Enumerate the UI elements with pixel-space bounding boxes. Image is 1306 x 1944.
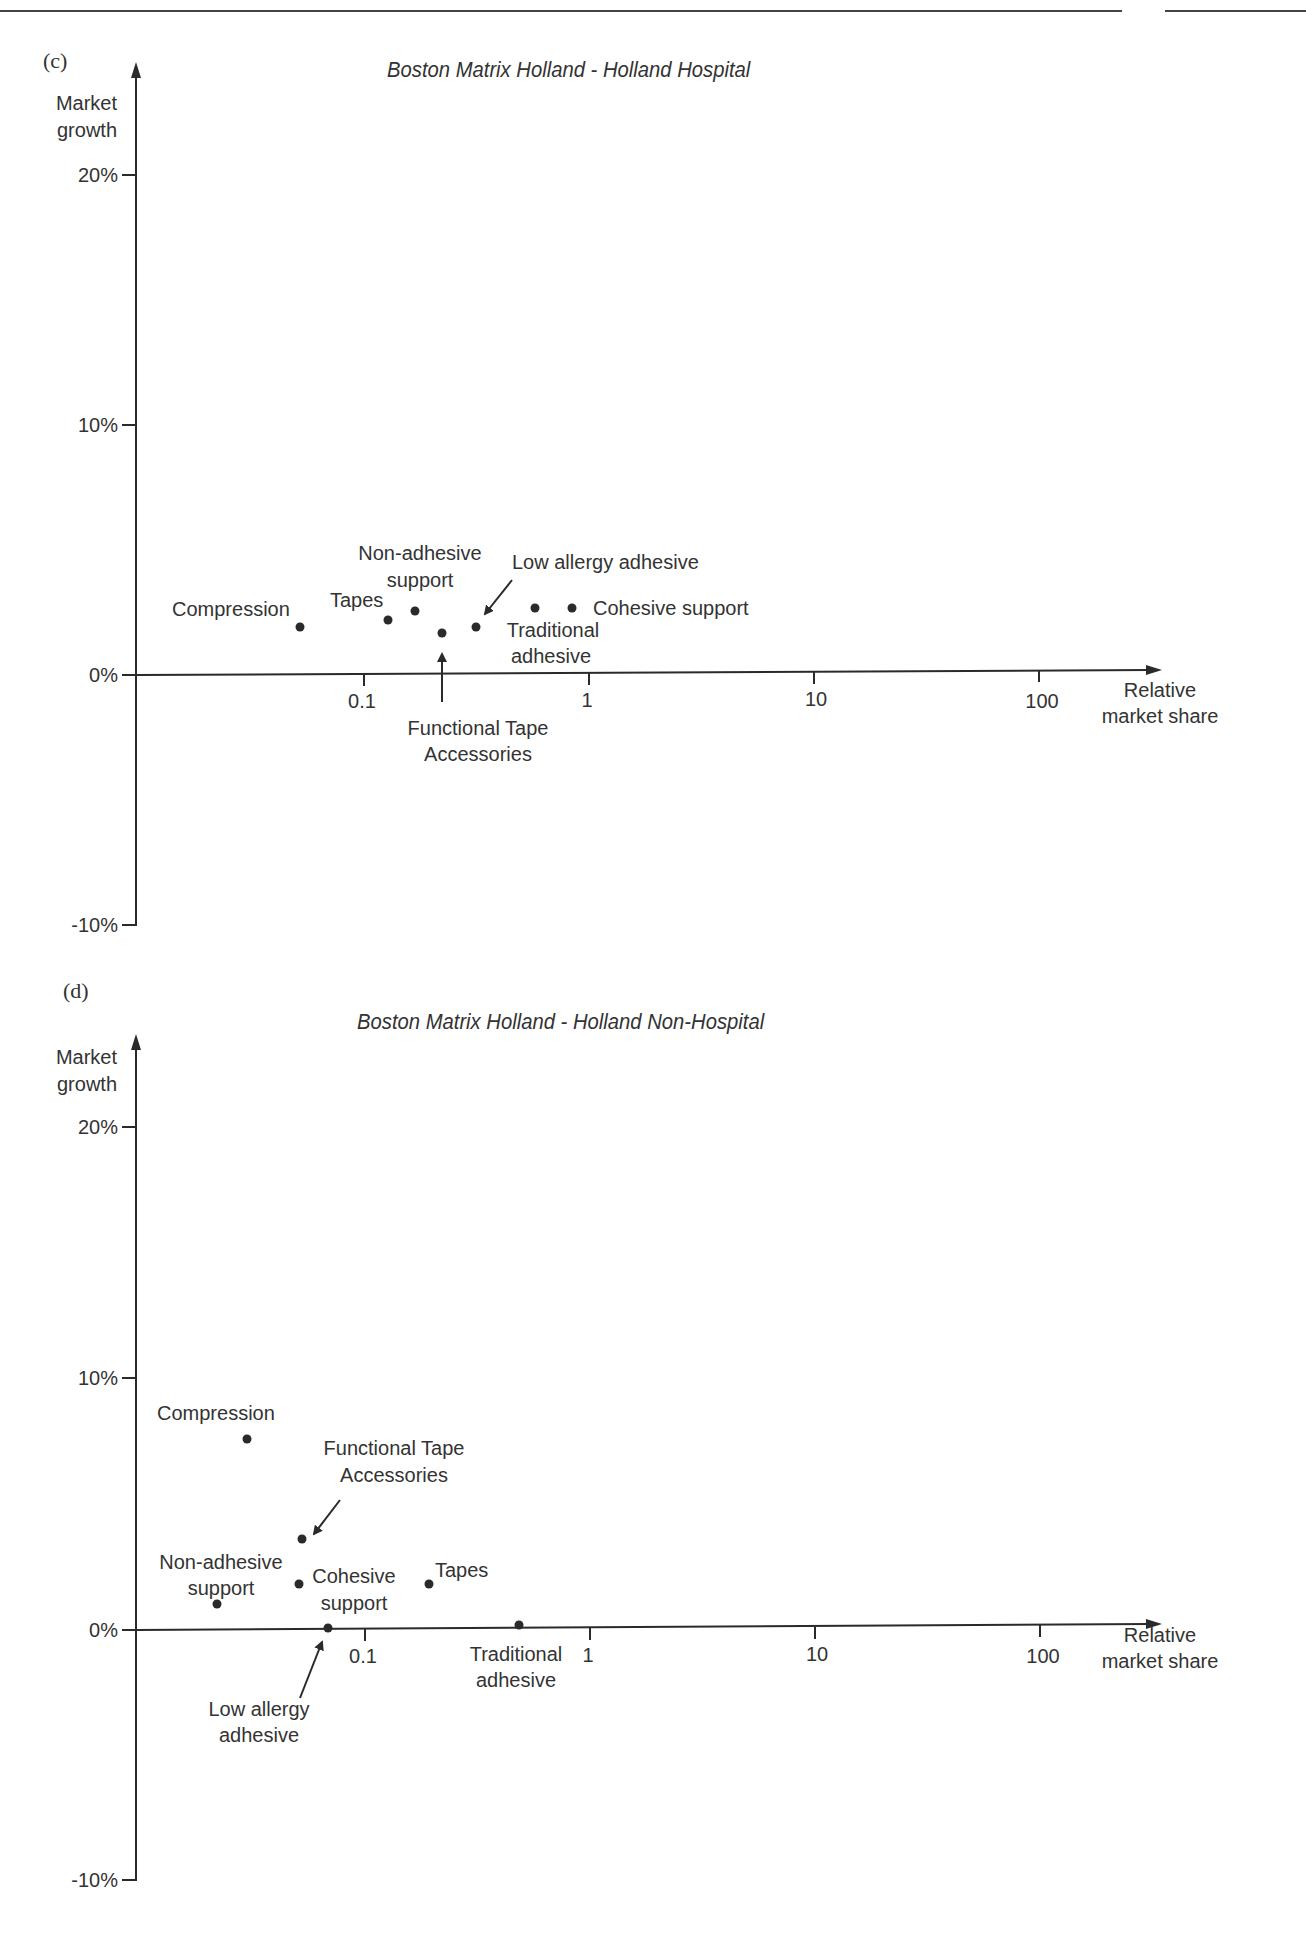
x-axis-arrow-icon [1146, 665, 1162, 675]
arrow-low-allergy [300, 1642, 322, 1698]
point-non-adhesive-support [213, 1600, 222, 1609]
label-traditional-2: adhesive [476, 1669, 556, 1691]
label-non-adhesive-2: support [387, 569, 454, 591]
point-traditional-adhesive [531, 604, 540, 613]
label-fta-1: Functional Tape [324, 1437, 465, 1459]
xtick-1: 1 [581, 689, 592, 711]
xtick-100: 100 [1025, 690, 1058, 712]
ytick-20: 20% [78, 164, 118, 186]
ytick-10: 10% [78, 1367, 118, 1389]
label-non-adhesive-2: support [188, 1577, 255, 1599]
point-functional-tape-accessories [298, 1535, 307, 1544]
x-axis [136, 670, 1150, 675]
point-low-allergy-adhesive [472, 623, 481, 632]
label-tapes: Tapes [330, 589, 383, 611]
chart-c: 20% 10% 0% -10% Market growth 0.1 1 10 1… [0, 0, 1306, 940]
arrow-functional-tape [314, 1500, 340, 1534]
point-tapes [425, 1580, 434, 1589]
ytick-m10: -10% [71, 914, 118, 936]
point-low-allergy-adhesive [324, 1624, 333, 1633]
label-cohesive-2: support [321, 1592, 388, 1614]
label-non-adhesive-1: Non-adhesive [159, 1551, 282, 1573]
ytick-m10: -10% [71, 1869, 118, 1891]
label-fta-1: Functional Tape [408, 717, 549, 739]
y-axis-arrow-icon [131, 1034, 141, 1050]
point-traditional-adhesive [515, 1621, 524, 1630]
xlabel-line1: Relative [1124, 1624, 1196, 1646]
point-compression [243, 1435, 252, 1444]
xlabel-line1: Relative [1124, 679, 1196, 701]
ytick-0: 0% [89, 1619, 118, 1641]
ylabel-line1: Market [56, 92, 118, 114]
ylabel-line2: growth [57, 1073, 117, 1095]
point-cohesive-support [295, 1580, 304, 1589]
label-low-allergy-2: adhesive [219, 1724, 299, 1746]
xtick-1: 1 [582, 1644, 593, 1666]
point-cohesive-support [568, 604, 577, 613]
arrow-low-allergy [485, 580, 512, 614]
label-cohesive-1: Cohesive [312, 1565, 395, 1587]
label-traditional-1: Traditional [470, 1643, 563, 1665]
ylabel-line1: Market [56, 1046, 118, 1068]
label-traditional-2: adhesive [511, 645, 591, 667]
label-tapes: Tapes [435, 1559, 488, 1581]
ytick-0: 0% [89, 664, 118, 686]
label-low-allergy: Low allergy adhesive [512, 551, 699, 573]
label-non-adhesive-1: Non-adhesive [358, 542, 481, 564]
label-traditional-1: Traditional [507, 619, 600, 641]
point-tapes [384, 616, 393, 625]
label-compression: Compression [172, 598, 290, 620]
chart-d: 20% 10% 0% -10% Market growth 0.1 1 10 1… [0, 940, 1306, 1944]
label-fta-2: Accessories [340, 1464, 448, 1486]
xtick-0.1: 0.1 [349, 1645, 377, 1667]
label-low-allergy-1: Low allergy [208, 1698, 309, 1720]
xtick-10: 10 [806, 1643, 828, 1665]
ytick-10: 10% [78, 414, 118, 436]
xtick-100: 100 [1026, 1645, 1059, 1667]
point-functional-tape-accessories [438, 629, 447, 638]
point-compression [296, 623, 305, 632]
y-axis-arrow-icon [131, 62, 141, 78]
xtick-10: 10 [805, 688, 827, 710]
x-axis [136, 1624, 1150, 1630]
xlabel-line2: market share [1102, 1650, 1219, 1672]
ytick-20: 20% [78, 1116, 118, 1138]
xlabel-line2: market share [1102, 705, 1219, 727]
label-fta-2: Accessories [424, 743, 532, 765]
label-cohesive-support: Cohesive support [593, 597, 749, 619]
ylabel-line2: growth [57, 119, 117, 141]
point-non-adhesive-support [411, 607, 420, 616]
label-compression: Compression [157, 1402, 275, 1424]
xtick-0.1: 0.1 [348, 690, 376, 712]
